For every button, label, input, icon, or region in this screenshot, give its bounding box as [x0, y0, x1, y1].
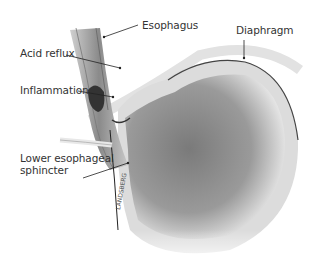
label-esophagus: Esophagus [142, 19, 198, 31]
label-les-line2: sphincter [20, 164, 68, 176]
illustration: LANDSBERG Esophagus Diaphragm Acid reflu… [0, 0, 321, 268]
label-inflammation: Inflammation [20, 84, 89, 96]
gerd-anatomy-drawing: LANDSBERG [0, 0, 321, 268]
label-les-line1: Lower esophageal [20, 152, 114, 164]
label-diaphragm: Diaphragm [236, 24, 294, 36]
label-acid-reflux: Acid reflux [20, 47, 75, 59]
